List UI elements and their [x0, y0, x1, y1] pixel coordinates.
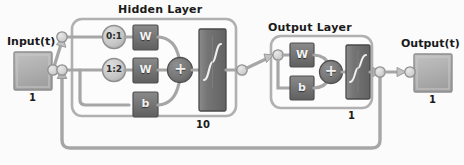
- output-layer-title: Output Layer: [268, 21, 352, 34]
- output-block: [414, 54, 452, 92]
- output-transfer-block: [346, 45, 370, 99]
- hidden-summation-node: [168, 58, 193, 83]
- diagram-canvas: [0, 0, 464, 165]
- wire-output-to-block: [370, 67, 415, 77]
- output-label: Output(t): [401, 37, 460, 50]
- output-size-label: 1: [429, 94, 436, 105]
- input-block: [14, 52, 52, 90]
- input-label: Input(t): [7, 35, 55, 48]
- hidden-layer-title: Hidden Layer: [118, 3, 202, 16]
- output-layer-size-label: 1: [348, 110, 355, 121]
- hidden-layer-size-label: 10: [196, 119, 210, 130]
- input-size-label: 1: [29, 92, 36, 103]
- neural-network-diagram: Hidden Layer Output Layer Input(t) 1 Out…: [0, 0, 464, 165]
- hidden-transfer-block: [199, 29, 226, 111]
- hidden-parameter-blocks: [133, 25, 158, 117]
